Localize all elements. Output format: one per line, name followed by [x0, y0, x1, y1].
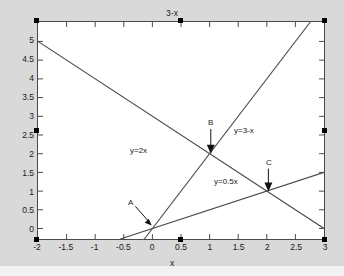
x-tick-label-minus-0-5: -0.5 — [113, 243, 133, 252]
y-tick-label-3: 3 — [6, 112, 34, 121]
x-tick-label-0-5: 0.5 — [171, 243, 191, 252]
plot-axes[interactable]: y=2x y=3-x y=0.5x A B C — [37, 21, 325, 240]
y-tick-label-1: 1 — [6, 188, 34, 197]
selection-handle-top-left[interactable] — [34, 18, 39, 23]
x-tick-label-3: 3 — [315, 243, 335, 252]
point-label-a: A — [128, 198, 133, 207]
x-tick-label-1: 1 — [200, 243, 220, 252]
selection-handle-bottom-left[interactable] — [34, 237, 39, 242]
selection-handle-bottom-right[interactable] — [322, 237, 327, 242]
y-tick-label-2-5: 2.5 — [6, 131, 34, 140]
y-tick-label-4-5: 4.5 — [6, 55, 34, 64]
curve-label-y-eq-3-minus-x: y=3-x — [234, 126, 254, 135]
figure-canvas[interactable]: 3-x — [0, 0, 344, 276]
y-tick-label-4: 4 — [6, 74, 34, 83]
chart-title: 3-x — [0, 8, 344, 18]
point-label-c: C — [266, 158, 272, 167]
plot-area: y=2x y=3-x y=0.5x A B C — [38, 22, 324, 239]
point-label-b: B — [208, 118, 213, 127]
selection-handle-middle-right[interactable] — [322, 128, 327, 133]
y-tick-label-5: 5 — [6, 36, 34, 45]
curve-label-y-eq-0-5x: y=0.5x — [214, 177, 238, 186]
selection-handle-middle-left[interactable] — [34, 128, 39, 133]
y-tick-label-0: 0 — [6, 225, 34, 234]
curve-label-y-eq-2x: y=2x — [130, 146, 147, 155]
x-axis-title: x — [0, 258, 344, 268]
x-tick-label-minus-1-5: -1.5 — [56, 243, 76, 252]
selection-handle-bottom-center[interactable] — [178, 237, 183, 242]
x-tick-label-minus-2: -2 — [27, 243, 47, 252]
selection-handle-top-center[interactable] — [178, 18, 183, 23]
y-tick-label-2: 2 — [6, 150, 34, 159]
y-tick-label-1-5: 1.5 — [6, 169, 34, 178]
x-tick-label-0: 0 — [142, 243, 162, 252]
x-tick-label-1-5: 1.5 — [229, 243, 249, 252]
selection-handle-top-right[interactable] — [322, 18, 327, 23]
x-tick-label-2: 2 — [257, 243, 277, 252]
x-tick-label-minus-1: -1 — [85, 243, 105, 252]
y-tick-label-0-5: 0.5 — [6, 206, 34, 215]
x-tick-label-2-5: 2.5 — [286, 243, 306, 252]
y-tick-label-3-5: 3.5 — [6, 93, 34, 102]
axis-ticks-svg — [38, 22, 324, 239]
